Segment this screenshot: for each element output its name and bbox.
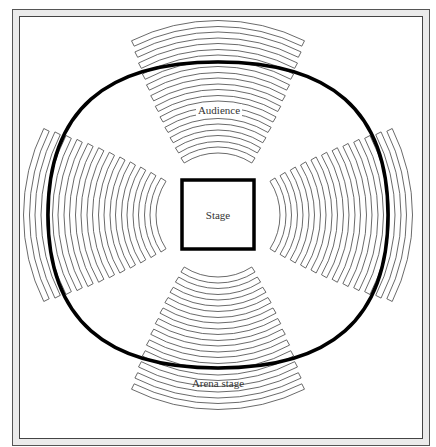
seat-row-left [138, 172, 155, 257]
seat-row-bottom [165, 298, 271, 318]
seat-row-right [354, 139, 378, 290]
seat-row-right [270, 178, 286, 252]
seat-row-top [170, 124, 266, 143]
seat-row-right [280, 172, 297, 257]
seat-row-bottom [181, 267, 255, 283]
seat-row-left [58, 139, 82, 290]
audience-label: Audience [198, 104, 240, 116]
seat-row-right [301, 162, 321, 268]
seat-row-left [115, 162, 135, 268]
seat-row-top [175, 136, 260, 153]
diagram-caption: Arena stage [0, 377, 436, 389]
stage-label: Stage [206, 209, 231, 221]
seat-row-bottom [155, 318, 281, 340]
seat-row-bottom [170, 287, 266, 306]
seat-row-right [321, 152, 343, 278]
seat-row-right [290, 167, 309, 263]
seat-row-left [92, 152, 114, 278]
seat-row-left [127, 167, 146, 263]
seat-row-left [150, 178, 166, 252]
seat-row-top [181, 147, 255, 163]
seat-row-bottom [175, 277, 260, 294]
